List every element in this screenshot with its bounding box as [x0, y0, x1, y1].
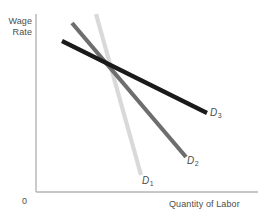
- curve-label-d2-subscript: 2: [195, 160, 199, 167]
- curve-label-d3: D3: [210, 107, 221, 119]
- curve-label-d3-name: D: [210, 107, 217, 118]
- curve-label-d3-subscript: 3: [218, 112, 222, 119]
- curve-label-d1: D1: [142, 175, 153, 187]
- y-axis-title: Wage Rate: [4, 16, 32, 38]
- curve-label-d2-name: D: [187, 155, 194, 166]
- curve-label-d2: D2: [187, 155, 198, 167]
- x-axis-title: Quantity of Labor: [169, 199, 240, 210]
- y-axis-title-line-1: Wage: [4, 16, 32, 27]
- wage-rate-labor-demand-figure: Wage Rate Quantity of Labor 0 D1 D2 D3: [0, 0, 265, 223]
- demand-curve-d3: [62, 41, 207, 113]
- origin-label: 0: [22, 196, 27, 207]
- curve-label-d1-name: D: [142, 175, 149, 186]
- curve-label-d1-subscript: 1: [150, 180, 154, 187]
- y-axis-title-line-2: Rate: [4, 27, 32, 38]
- plot-area: [0, 0, 265, 223]
